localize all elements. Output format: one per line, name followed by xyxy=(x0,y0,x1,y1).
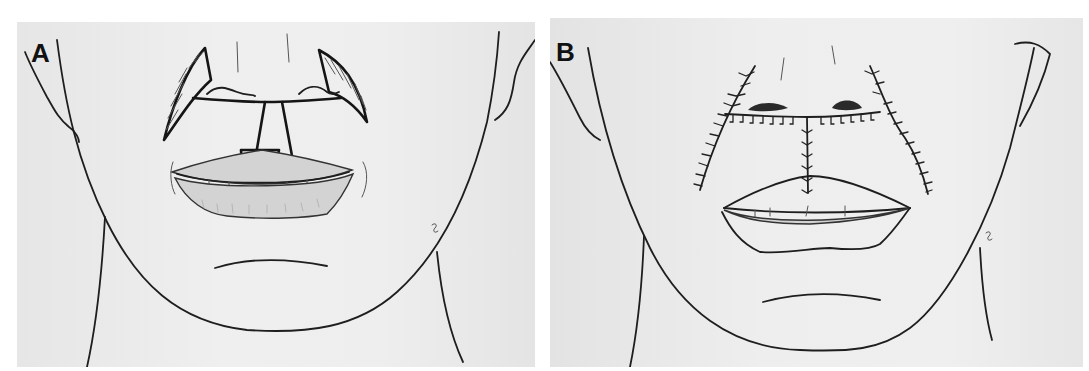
neck-left xyxy=(87,217,105,367)
panel-label-b: B xyxy=(556,39,575,65)
left-nostril xyxy=(748,103,788,111)
neck-mark xyxy=(432,224,438,232)
right-nasolabial-sutures xyxy=(865,71,932,192)
panel-b-illustration xyxy=(550,18,1083,367)
nose-line-right xyxy=(832,46,835,64)
nose-line-right xyxy=(287,34,289,62)
upper-lip xyxy=(724,176,910,208)
right-nostril xyxy=(832,101,862,111)
left-perialar-crescent xyxy=(164,48,211,140)
nasal-sill-suture-line xyxy=(725,112,880,117)
nasal-sill-incision xyxy=(193,98,341,102)
left-nostril xyxy=(207,88,255,96)
chin-crease xyxy=(763,294,880,302)
neck-left xyxy=(630,236,644,367)
nose-line-left xyxy=(781,58,784,80)
panel-a-preoperative-drawing: A xyxy=(17,22,535,367)
panel-b-postoperative-drawing: B xyxy=(550,18,1083,367)
face-jaw-outline xyxy=(588,48,1034,351)
nose-line-left xyxy=(237,42,238,72)
right-nasolabial-suture-line xyxy=(870,66,928,194)
neck-right xyxy=(437,252,463,362)
panel-a-illustration xyxy=(17,22,535,367)
neck-mark xyxy=(986,232,992,240)
chin-crease xyxy=(215,260,327,268)
right-ear xyxy=(495,40,535,120)
right-nostril xyxy=(299,87,339,94)
neck-right xyxy=(980,248,992,340)
panel-label-a: A xyxy=(31,40,50,66)
left-nasolabial-sutures xyxy=(694,72,754,186)
